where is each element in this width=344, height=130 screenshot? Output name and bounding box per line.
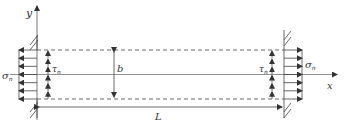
right-wall-support: [284, 30, 291, 118]
length-label: L: [154, 111, 162, 122]
right-normal-stress-label: σn: [305, 59, 316, 71]
plate-stress-diagram: y x b L σn τn σn τn: [0, 0, 344, 130]
left-normal-stress-label: σn: [2, 70, 13, 82]
right-shear-stress-label: τn: [259, 64, 268, 75]
left-shear-stress-label: τn: [52, 64, 61, 75]
x-axis-label: x: [327, 80, 333, 91]
width-label: b: [117, 63, 123, 74]
y-axis-label: y: [25, 7, 33, 20]
left-normal-stress-arrows: [19, 50, 37, 99]
right-normal-stress-arrows: [284, 50, 302, 99]
